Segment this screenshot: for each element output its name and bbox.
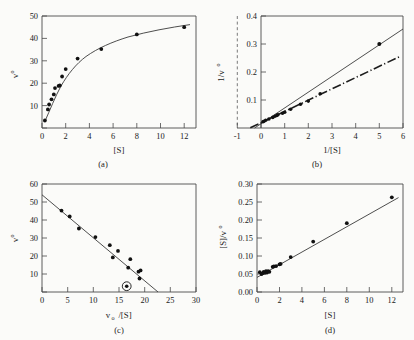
panel-d-axes [257,184,403,292]
panel-c-ylabel-sub: o [9,234,15,237]
panel-b-y-ticks [261,16,266,100]
figure-enzyme-kinetics: 50 40 30 20 10 0 2 4 6 8 [0,0,414,340]
panel-b-ylabel-sub: o [215,63,221,66]
xtick-25: 25 [166,296,174,305]
panel-d-labels: [S] [S]/v o (d) [217,225,335,335]
panel-a-y-ticklabels: 50 40 30 20 10 [30,12,38,111]
panel-a-data-points [43,25,186,122]
ytick-30: 30 [30,234,38,243]
ytick-10: 10 [30,270,38,279]
ytick-0p20: 0.20 [238,216,253,225]
panel-c-x-ticks [42,287,196,292]
xtick-10: 10 [156,132,164,141]
panel-a-axes [42,16,196,128]
xtick-2: 2 [64,132,68,141]
xtick-6: 6 [322,296,326,305]
xtick-6: 6 [111,132,115,141]
ytick-0p25: 0.25 [238,198,253,207]
panel-a-labels: [S] v o (a) [9,70,124,169]
panel-a-x-ticklabels: 0 2 4 6 8 10 12 [40,132,188,141]
ytick-60: 60 [30,180,38,189]
xtick-2: 2 [277,296,281,305]
ytick-0p15: 0.15 [238,234,253,243]
ytick-0p00: 0.00 [238,288,253,297]
panel-a-canvas: 50 40 30 20 10 0 2 4 6 8 [0,0,207,170]
panel-d-hanes-woolf: 0.30 0.25 0.20 0.15 0.10 0.05 0.00 0 2 [207,170,414,340]
ytick-40: 40 [30,216,38,225]
xtick-neg1: -1 [234,132,241,141]
xtick-3: 3 [330,132,334,141]
ytick-0p3: 0.3 [247,40,257,49]
panel-b-tag: (b) [312,159,322,169]
ytick-20: 20 [30,79,38,88]
xtick-15: 15 [115,296,123,305]
panel-b-xlabel: 1/[S] [323,145,341,155]
xtick-12: 12 [180,132,188,141]
panel-d-ylabel: [S]/v [218,231,228,249]
xtick-8: 8 [135,132,139,141]
panel-a-x-ticks [42,123,184,128]
xtick-8: 8 [345,296,349,305]
panel-b-x-ticks [237,123,403,128]
xtick-0: 0 [40,296,44,305]
panel-d-x-ticklabels: 0 2 4 6 8 10 12 [255,296,396,305]
ytick-10: 10 [30,102,38,111]
panel-b-canvas: 0.4 0.3 0.2 0.1 -1 0 1 2 3 [207,0,414,170]
panel-b-lineweaver-burk: 0.4 0.3 0.2 0.1 -1 0 1 2 3 [207,0,414,170]
panel-c-xlabel-lead: v [106,310,111,320]
panel-a-y-ticks [42,16,47,128]
panel-c-axes [42,184,196,292]
ytick-30: 30 [30,57,38,66]
panel-c-xlabel-sub: o [111,315,114,321]
panel-d-y-ticklabels: 0.30 0.25 0.20 0.15 0.10 0.05 0.00 [238,180,253,297]
panel-a-ylabel-sub: o [9,70,15,73]
ytick-50: 50 [30,12,38,21]
xtick-1: 1 [283,132,287,141]
panel-c-tag: (c) [114,325,124,335]
xtick-20: 20 [141,296,149,305]
xtick-5: 5 [377,132,381,141]
panel-d-data-points [258,195,394,276]
panel-d-xlabel: [S] [325,310,336,320]
panel-b-x-ticklabels: -1 0 1 2 3 4 5 6 [234,132,405,141]
ytick-50: 50 [30,198,38,207]
panel-c-x-ticklabels: 0 5 10 15 20 25 30 [40,296,200,305]
panel-d-tag: (d) [325,325,335,335]
panel-c-y-ticks [42,184,47,292]
xtick-10: 10 [89,296,97,305]
xtick-5: 5 [66,296,70,305]
panel-c-canvas: 60 50 40 30 20 10 0 5 10 15 2 [0,170,207,340]
ytick-20: 20 [30,252,38,261]
panel-c-circled-outlier [122,282,131,291]
xtick-0: 0 [40,132,44,141]
panel-d-ylabel-sub: o [217,225,223,228]
xtick-0: 0 [259,132,263,141]
xtick-10: 10 [365,296,373,305]
xtick-30: 30 [192,296,200,305]
ytick-0p4: 0.4 [247,12,258,21]
xtick-6: 6 [401,132,405,141]
panel-c-eadie-hofstee: 60 50 40 30 20 10 0 5 10 15 2 [0,170,207,340]
xtick-12: 12 [388,296,396,305]
xtick-4: 4 [300,296,305,305]
panel-a-tag: (a) [98,159,108,169]
panel-c-labels: v o /[S] v o (c) [9,234,132,335]
panel-c-y-ticklabels: 60 50 40 30 20 10 [30,180,38,279]
panel-c-xlabel: /[S] [118,310,131,320]
panel-a-michaelis-menten: 50 40 30 20 10 0 2 4 6 8 [0,0,207,170]
xtick-4: 4 [354,132,359,141]
ytick-0p1: 0.1 [247,96,257,105]
panel-a-xlabel: [S] [114,145,125,155]
panel-d-x-ticks [257,287,392,292]
ytick-40: 40 [30,34,38,43]
ytick-0p2: 0.2 [247,68,257,77]
ytick-0p30: 0.30 [238,180,253,189]
xtick-4: 4 [87,132,92,141]
panel-a-fit-curve [45,25,190,122]
panel-b-ylabel: 1/v [216,70,226,82]
xtick-0: 0 [255,296,259,305]
panel-d-canvas: 0.30 0.25 0.20 0.15 0.10 0.05 0.00 0 2 [207,170,414,340]
xtick-2: 2 [306,132,310,141]
ytick-0p10: 0.10 [238,252,253,261]
ytick-0p05: 0.05 [238,270,253,279]
